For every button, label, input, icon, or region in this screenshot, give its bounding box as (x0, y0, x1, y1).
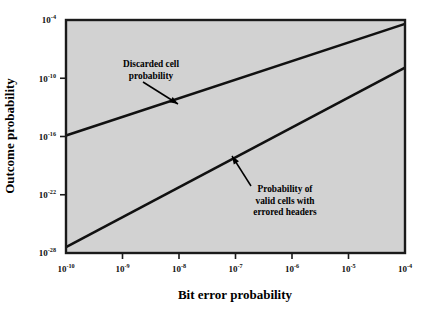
y-axis-title: Outcome probability (2, 78, 17, 194)
y-tick-label-2: 10-16 (39, 130, 56, 142)
x-tick-label-3: 10-7 (228, 262, 242, 274)
y-tick-label-0: 10-4 (42, 13, 56, 25)
y-tick-label-3: 10-22 (39, 188, 56, 200)
plot-area-background (66, 20, 405, 253)
x-tick-label-5: 10-5 (341, 262, 355, 274)
x-tick-label-1: 10-9 (115, 262, 129, 274)
y-tick-label-4: 10-28 (39, 246, 56, 258)
x-axis-title: Bit error probability (178, 287, 293, 302)
x-axis-tick-labels: 10-1010-910-810-710-610-510-4 (57, 262, 412, 274)
x-tick-label-2: 10-8 (172, 262, 186, 274)
log-log-line-chart: Discarded cell probabilityProbability of… (0, 0, 428, 314)
x-tick-label-0: 10-10 (57, 262, 74, 274)
annotation-label-valid-cells-errored-headers: Probability ofvalid cells witherrored he… (253, 184, 317, 217)
annotation-label-discarded-cell-probability: Discarded cellprobability (123, 59, 179, 81)
y-axis-tick-labels: 10-410-1010-1610-2210-28 (39, 13, 56, 258)
y-tick-label-1: 10-10 (39, 72, 56, 84)
chart-figure: Discarded cell probabilityProbability of… (0, 0, 428, 314)
x-tick-label-6: 10-4 (398, 262, 412, 274)
x-tick-label-4: 10-6 (285, 262, 299, 274)
